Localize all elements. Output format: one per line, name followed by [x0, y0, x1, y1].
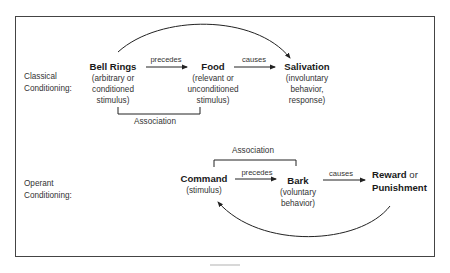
node-salivation-desc-3: response) [289, 97, 325, 105]
node-reward: Reward or [372, 170, 418, 180]
node-bell-rings-desc-1: (arbitrary or [92, 75, 134, 83]
node-food-desc-1: (relevant or [192, 75, 233, 83]
node-command: Command [181, 174, 228, 184]
operant-row-label-line1: Operant [24, 180, 54, 188]
operant-edge-causes: causes [329, 170, 353, 178]
node-punishment: Punishment [372, 183, 427, 193]
node-bark-desc-1: (voluntary [280, 189, 316, 197]
classical-association-label: Association [134, 118, 176, 126]
classical-arc-arrow [118, 24, 290, 58]
operant-edge-precedes: precedes [241, 169, 272, 177]
node-salivation-desc-1: (involuntary [286, 75, 328, 83]
node-reward-title: Reward [372, 169, 407, 180]
node-bell-rings: Bell Rings [90, 62, 137, 72]
figure-caption-cropped [210, 264, 240, 266]
node-salivation: Salivation [284, 62, 329, 72]
node-food-desc-2: unconditioned [188, 86, 239, 94]
classical-row-label-line2: Conditioning: [24, 85, 72, 93]
diagram-connectors [0, 0, 450, 273]
classical-edge-causes: causes [242, 56, 266, 64]
node-command-desc-1: (stimulus) [186, 187, 221, 195]
operant-row-label-line2: Conditioning: [24, 192, 72, 200]
classical-association-bracket [118, 107, 200, 114]
operant-association-label: Association [232, 147, 274, 155]
node-bell-rings-desc-2: conditioned [92, 86, 134, 94]
operant-association-bracket [214, 160, 296, 167]
node-salivation-desc-2: behavior, [290, 86, 323, 94]
node-reward-join: or [407, 169, 418, 180]
node-food-desc-3: stimulus) [197, 97, 230, 105]
node-bark-desc-2: behavior) [281, 200, 315, 208]
node-bark: Bark [287, 176, 308, 186]
classical-edge-precedes: precedes [150, 56, 181, 64]
node-food: Food [201, 62, 224, 72]
node-bell-rings-desc-3: stimulus) [97, 97, 130, 105]
classical-row-label-line1: Classical [24, 73, 57, 81]
node-punishment-title: Punishment [372, 182, 427, 193]
